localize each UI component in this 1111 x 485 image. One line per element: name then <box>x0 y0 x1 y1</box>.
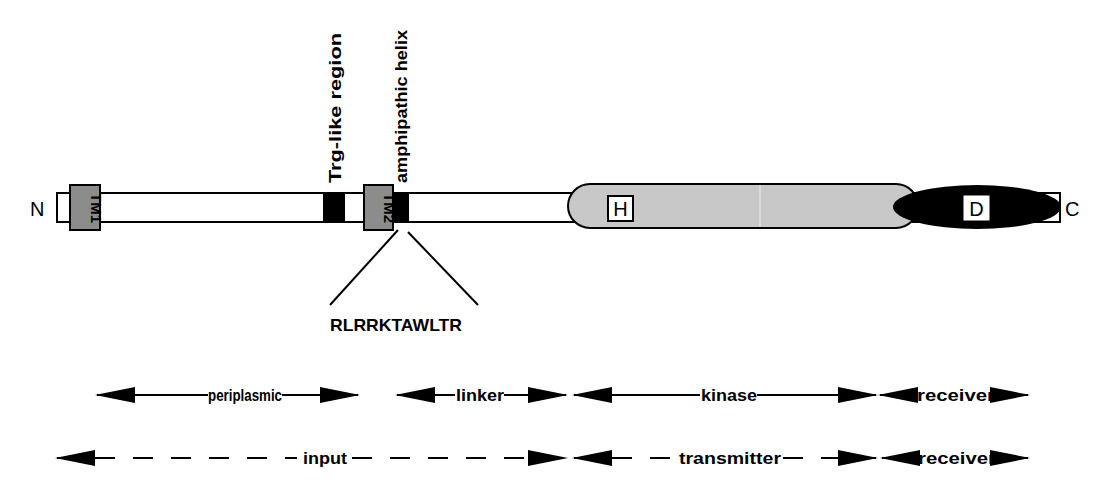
callout-line-right <box>408 232 478 305</box>
h-box-label: H <box>613 198 627 220</box>
n-terminus-label: N <box>30 198 44 220</box>
module-row: input transmitter receiver <box>57 449 1028 468</box>
c-terminus-label: C <box>1065 198 1079 220</box>
transmitter-label: transmitter <box>679 449 781 468</box>
trg-like-region-block <box>323 193 345 222</box>
tm1-label: TM1 <box>88 193 105 223</box>
tm2-label: TM2 <box>381 193 398 223</box>
domain-row: periplasmic linker kinase receiver <box>97 386 1028 405</box>
domain-diagram: TM1 TM2 H D N C Trg-like region amphipat… <box>0 0 1111 485</box>
periplasmic-label: periplasmic <box>208 386 282 405</box>
d-box-label: D <box>969 198 983 220</box>
callout-line-left <box>330 230 398 305</box>
trg-like-region-label: Trg-like region <box>327 33 344 183</box>
linker-label: linker <box>456 386 504 405</box>
tm1-segment: TM1 <box>70 185 105 230</box>
receiver-module-label: receiver <box>918 449 996 468</box>
tm2-segment: TM2 <box>364 185 398 230</box>
sequence-label: RLRRKTAWLTR <box>330 316 462 335</box>
receiver-domain-label: receiver <box>917 386 995 405</box>
input-label: input <box>303 449 347 468</box>
kinase-label: kinase <box>701 386 757 405</box>
amphipathic-helix-label: amphipathic helix <box>393 30 410 183</box>
